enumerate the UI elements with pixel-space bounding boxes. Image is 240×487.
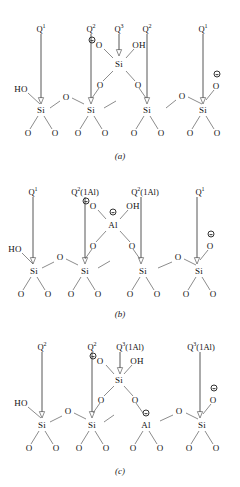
negative-charge-icon bbox=[143, 410, 150, 417]
atom-si-3: Si bbox=[139, 267, 147, 276]
atom-oxygen-top-left: O bbox=[96, 41, 103, 50]
negative-charge-icon bbox=[214, 71, 221, 78]
atom-oxygen-chain-1: O bbox=[65, 407, 72, 416]
panel-caption-a: (a) bbox=[115, 151, 126, 161]
atom-oxygen-bottom: O bbox=[26, 444, 33, 453]
atom-oxygen-bottom: O bbox=[131, 129, 138, 138]
atom-oxygen-bottom: O bbox=[45, 290, 52, 299]
atom-oxygen-bottom: O bbox=[76, 444, 83, 453]
atom-oxygen-bottom: O bbox=[103, 444, 110, 453]
atom-oxygen-bottom: O bbox=[213, 444, 220, 453]
atom-hydroxyl-left: HO bbox=[14, 399, 27, 408]
panel-caption-b: (b) bbox=[115, 309, 126, 319]
atom-oxygen-terminal-right: O bbox=[207, 242, 214, 251]
atom-si-2: Si bbox=[88, 421, 96, 430]
atom-oxygen-bottom: O bbox=[52, 129, 59, 138]
atom-si-1: Si bbox=[37, 106, 45, 115]
negative-charge-icon bbox=[211, 385, 218, 392]
q-label-q2-b: Q2 bbox=[87, 343, 96, 352]
atom-si-bridge: Si bbox=[115, 60, 123, 69]
q-label-q1-right: Q1 bbox=[195, 188, 204, 197]
atom-si-4: Si bbox=[199, 106, 207, 115]
atom-oxygen-chain-3: O bbox=[179, 92, 186, 101]
atom-al-backbone: Al bbox=[141, 421, 150, 430]
atom-oxygen-bottom: O bbox=[158, 129, 165, 138]
atom-hydroxyl-left: HO bbox=[8, 245, 21, 254]
q-label-q2-1al-a: Q2(1Al) bbox=[71, 188, 99, 197]
atom-hydroxyl-top: OH bbox=[130, 357, 143, 366]
negative-charge-icon bbox=[208, 231, 215, 238]
atom-oxygen-chain-3: O bbox=[175, 253, 182, 262]
q-label-q1-left: Q1 bbox=[28, 188, 37, 197]
q-label-q2-a: Q2 bbox=[86, 25, 95, 34]
atom-oxygen-bridge-b: O bbox=[132, 396, 139, 405]
panel-a: Q1 Q2 Q3 Q2 Q1 HO OH O Si O O Si Si Si S… bbox=[0, 0, 240, 165]
atom-oxygen-bottom: O bbox=[127, 290, 134, 299]
q-label-q2-a: Q2 bbox=[37, 343, 46, 352]
negative-charge-icon bbox=[90, 353, 97, 360]
panel-c-stage: Q2 Q2 Q3(1Al) Q3(1Al) HO OH O Si O O Si … bbox=[0, 325, 240, 487]
atom-oxygen-bridge-a: O bbox=[90, 242, 97, 251]
negative-charge-icon bbox=[89, 37, 96, 44]
q-label-q2-1al-b: Q2(1Al) bbox=[131, 188, 159, 197]
atom-si-4: Si bbox=[198, 421, 206, 430]
atom-oxygen-bridge-a: O bbox=[97, 81, 104, 90]
atom-oxygen-bottom: O bbox=[214, 129, 221, 138]
atom-oxygen-chain-1: O bbox=[57, 253, 64, 262]
panel-b-stage: Q1 Q2(1Al) Q2(1Al) Q1 HO OH O Al O O Si … bbox=[0, 165, 240, 325]
panel-c: Q2 Q2 Q3(1Al) Q3(1Al) HO OH O Si O O Si … bbox=[0, 325, 240, 487]
atom-oxygen-chain-3: O bbox=[176, 407, 183, 416]
atom-oxygen-bridge-a: O bbox=[98, 396, 105, 405]
atom-si-1: Si bbox=[38, 421, 46, 430]
atom-hydroxyl-top: OH bbox=[132, 41, 145, 50]
atom-oxygen-bottom: O bbox=[25, 129, 32, 138]
atom-oxygen-bottom: O bbox=[53, 444, 60, 453]
atom-oxygen-chain-1: O bbox=[63, 93, 70, 102]
q-label-q1-left: Q1 bbox=[36, 25, 45, 34]
q-label-q3-1al-b: Q3(1Al) bbox=[187, 343, 215, 352]
panel-caption-c: (c) bbox=[115, 466, 125, 476]
atom-oxygen-bridge-b: O bbox=[129, 242, 136, 251]
atom-oxygen-bottom: O bbox=[102, 129, 109, 138]
atom-al-bridge: Al bbox=[108, 221, 117, 230]
panel-a-stage: Q1 Q2 Q3 Q2 Q1 HO OH O Si O O Si Si Si S… bbox=[0, 0, 240, 165]
atom-hydroxyl-left: HO bbox=[14, 85, 27, 94]
atom-oxygen-top-left: O bbox=[97, 357, 104, 366]
atom-si-2: Si bbox=[81, 267, 89, 276]
atom-si-2: Si bbox=[87, 106, 95, 115]
atom-si-4: Si bbox=[195, 267, 203, 276]
atom-oxygen-bottom: O bbox=[183, 290, 190, 299]
atom-oxygen-bottom: O bbox=[187, 129, 194, 138]
atom-oxygen-terminal-right: O bbox=[210, 396, 217, 405]
q-label-q3-1al-a: Q3(1Al) bbox=[116, 343, 144, 352]
q-label-q2-b: Q2 bbox=[142, 25, 151, 34]
atom-si-3: Si bbox=[143, 106, 151, 115]
q-label-q3: Q3 bbox=[114, 25, 123, 34]
atom-oxygen-terminal-right: O bbox=[213, 82, 220, 91]
atom-oxygen-bottom: O bbox=[157, 444, 164, 453]
atom-oxygen-top-left: O bbox=[90, 202, 97, 211]
atom-oxygen-bridge-b: O bbox=[135, 81, 142, 90]
atom-si-bridge: Si bbox=[115, 376, 123, 385]
q-label-q1-right: Q1 bbox=[198, 25, 207, 34]
atom-oxygen-bottom: O bbox=[18, 290, 25, 299]
atom-si-1: Si bbox=[30, 267, 38, 276]
atom-oxygen-bottom: O bbox=[68, 290, 75, 299]
atom-oxygen-bottom: O bbox=[154, 290, 161, 299]
atom-oxygen-bottom: O bbox=[186, 444, 193, 453]
atom-oxygen-bottom: O bbox=[95, 290, 102, 299]
negative-charge-icon bbox=[110, 209, 117, 216]
atom-oxygen-bottom: O bbox=[210, 290, 217, 299]
atom-hydroxyl-top: OH bbox=[126, 202, 139, 211]
panel-b: Q1 Q2(1Al) Q2(1Al) Q1 HO OH O Al O O Si … bbox=[0, 165, 240, 325]
atom-oxygen-bottom: O bbox=[130, 444, 137, 453]
atom-oxygen-bottom: O bbox=[75, 129, 82, 138]
negative-charge-icon bbox=[83, 198, 90, 205]
